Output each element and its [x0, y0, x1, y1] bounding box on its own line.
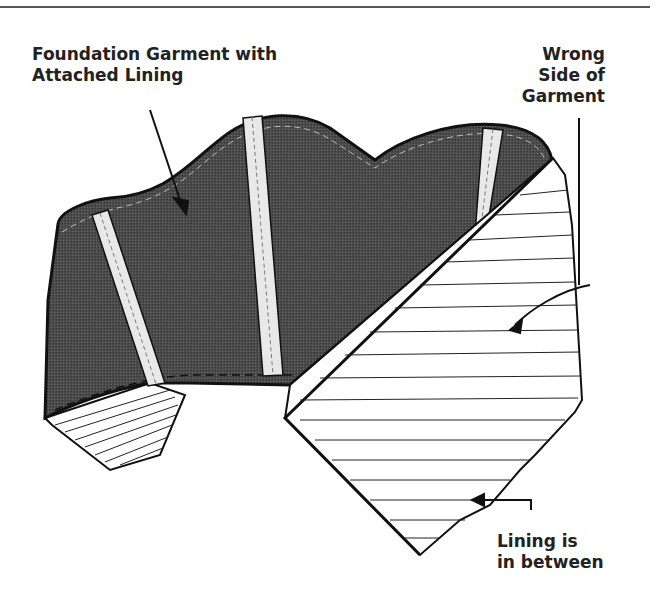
label-line: Foundation Garment with [32, 44, 277, 65]
label-line: Lining is [497, 531, 604, 552]
label-line: Wrong [522, 44, 605, 65]
label-line: Attached Lining [32, 65, 277, 86]
label-line: in between [497, 552, 604, 573]
label-wrong-side: Wrong Side of Garment [522, 44, 605, 107]
label-lining-between: Lining is in between [497, 531, 604, 573]
label-line: Side of [522, 65, 605, 86]
label-line: Garment [522, 86, 605, 107]
label-foundation-garment: Foundation Garment with Attached Lining [32, 44, 277, 86]
